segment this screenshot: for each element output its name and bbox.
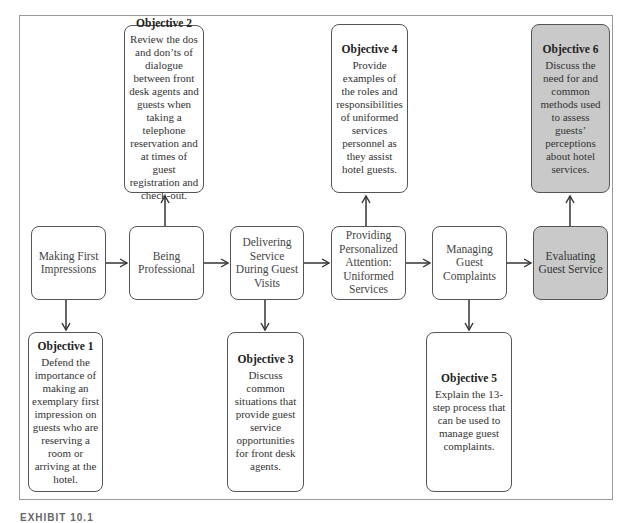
objective-4-box: Objective 4 Provide examples of the role… [331, 24, 408, 193]
objective-text: Defend the importance of making an exemp… [29, 356, 102, 486]
objective-text: Review the dos and don’ts of dialogue be… [125, 33, 203, 202]
stage-being-professional: Being Professional [129, 226, 204, 300]
objective-3-box: Objective 3 Discuss common situations th… [227, 332, 304, 492]
stage-label: Providing Personalized Attention: Unifor… [332, 229, 405, 297]
objective-title: Objective 5 [441, 371, 497, 385]
objective-text: Explain the 13-step process that can be … [427, 388, 511, 453]
objective-text: Discuss the need for and common methods … [532, 59, 609, 176]
objective-title: Objective 4 [342, 42, 398, 56]
objective-title: Objective 2 [136, 16, 192, 30]
stage-label: Evaluating Guest Service [534, 250, 607, 277]
stage-evaluating-guest-service: Evaluating Guest Service [533, 226, 608, 300]
objective-title: Objective 1 [38, 339, 94, 353]
stage-label: Making First Impressions [32, 250, 105, 277]
stage-providing-personalized-attention: Providing Personalized Attention: Unifor… [331, 226, 406, 300]
objective-title: Objective 3 [238, 352, 294, 366]
stage-label: Delivering Service During Guest Visits [231, 236, 303, 290]
objective-text: Provide examples of the roles and respon… [332, 59, 407, 176]
objective-text: Discuss common situations that provide g… [228, 369, 303, 473]
stage-label: Managing Guest Complaints [433, 243, 506, 284]
figure-caption: EXHIBIT 10.1 [20, 512, 94, 523]
stage-managing-guest-complaints: Managing Guest Complaints [432, 226, 507, 300]
objective-1-box: Objective 1 Defend the importance of mak… [28, 332, 103, 492]
stage-making-first-impressions: Making First Impressions [31, 226, 106, 300]
stage-label: Being Professional [130, 250, 203, 277]
stage-delivering-service: Delivering Service During Guest Visits [230, 226, 304, 300]
objective-6-box: Objective 6 Discuss the need for and com… [531, 24, 610, 193]
objective-2-box: Objective 2 Review the dos and don’ts of… [124, 25, 204, 193]
objective-5-box: Objective 5 Explain the 13-step process … [426, 332, 512, 492]
objective-title: Objective 6 [543, 42, 599, 56]
